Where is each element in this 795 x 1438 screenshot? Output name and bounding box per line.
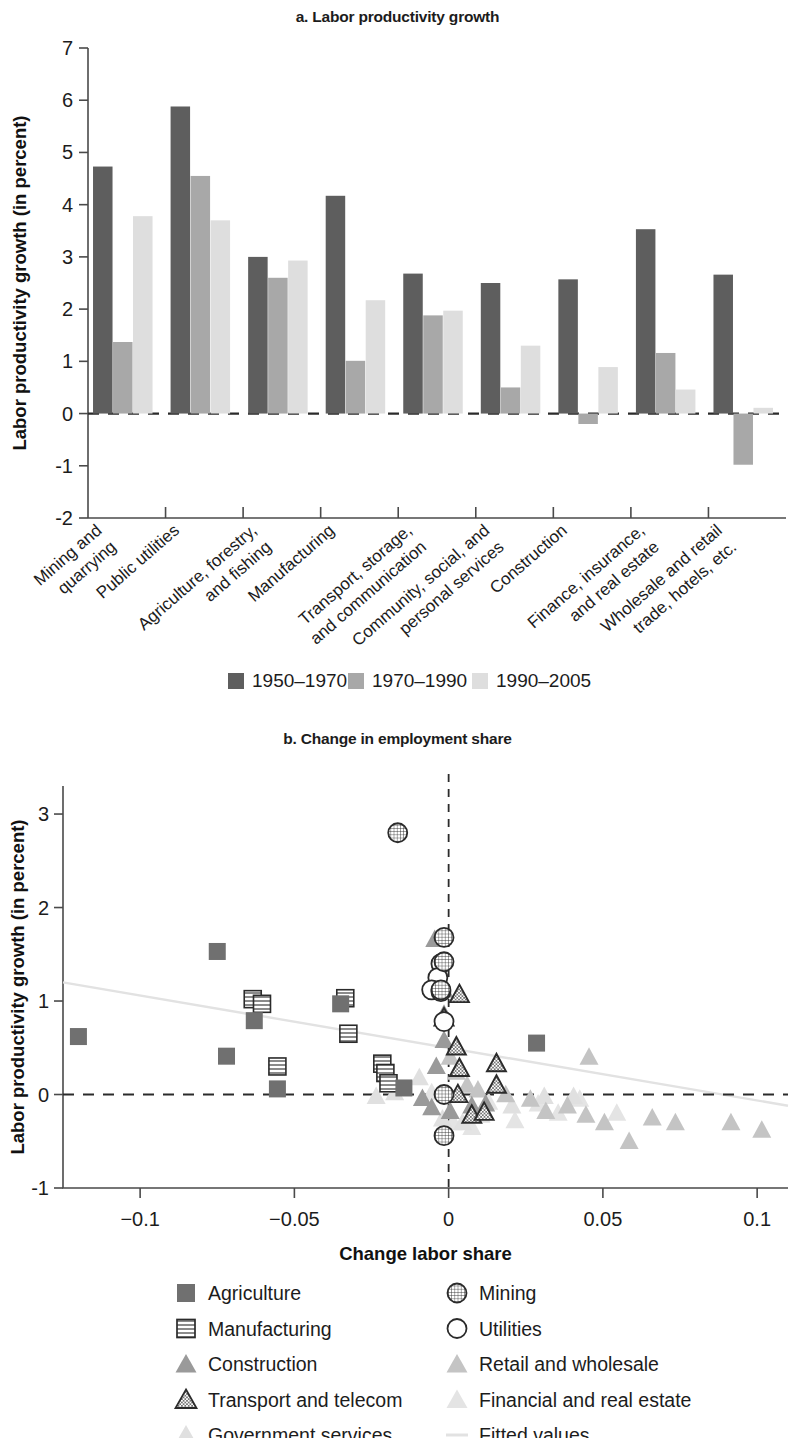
bar xyxy=(423,315,443,413)
scatter-marker xyxy=(269,1058,286,1075)
legend-label: Construction xyxy=(208,1353,317,1375)
svg-text:5: 5 xyxy=(62,141,73,163)
bar-chart: 76543210-1-2Mining andquarryingPublic ut… xyxy=(0,26,795,698)
panel-b-ylabel: Labor productivity growth (in percent) xyxy=(7,819,28,1154)
scatter-marker xyxy=(435,1126,454,1145)
svg-text:6: 6 xyxy=(62,89,73,111)
panel-a-ylabel: Labor productivity growth (in percent) xyxy=(9,115,30,450)
svg-text:−0.05: −0.05 xyxy=(269,1208,320,1230)
svg-text:-2: -2 xyxy=(55,507,73,529)
svg-text:Labor productivity growth (in: Labor productivity growth (in percent) xyxy=(7,819,28,1154)
legend-marker-triangle xyxy=(447,1390,468,1409)
panel-b-title: b. Change in employment share xyxy=(0,712,795,748)
scatter-marker xyxy=(332,995,349,1012)
bar xyxy=(133,216,153,413)
scatter-points xyxy=(70,823,771,1149)
bar xyxy=(366,300,386,413)
panel-b-xlabel: Change labor share xyxy=(339,1243,512,1264)
scatter-marker xyxy=(395,1079,412,1096)
legend-label: Transport and telecom xyxy=(208,1389,402,1411)
scatter-marker xyxy=(607,1103,626,1121)
svg-text:4: 4 xyxy=(62,194,73,216)
bar xyxy=(481,283,501,414)
scatter-marker xyxy=(269,1080,286,1097)
legend-label: 1950–1970 xyxy=(252,670,347,691)
svg-text:-1: -1 xyxy=(31,1177,49,1199)
bar xyxy=(403,274,423,414)
legend-marker-open-circle xyxy=(448,1319,467,1338)
legend-marker-triangle xyxy=(447,1354,468,1373)
bar xyxy=(326,196,346,414)
bar xyxy=(753,408,773,414)
bar xyxy=(211,220,231,413)
fitted-values-line xyxy=(63,982,788,1105)
svg-text:3: 3 xyxy=(62,246,73,268)
svg-text:0: 0 xyxy=(443,1208,454,1230)
legend-swatch xyxy=(472,673,488,689)
legend-swatch xyxy=(348,673,364,689)
bar xyxy=(268,278,288,414)
scatter-marker xyxy=(435,928,454,947)
legend-label: Government services xyxy=(208,1424,392,1438)
scatter-legend: AgricultureManufacturingConstructionTran… xyxy=(176,1282,692,1438)
scatter-marker xyxy=(666,1113,685,1131)
legend-marker-lined-square xyxy=(177,1320,195,1338)
scatter-marker xyxy=(576,1105,595,1123)
scatter-marker xyxy=(528,1035,545,1052)
svg-text:2: 2 xyxy=(62,298,73,320)
svg-text:7: 7 xyxy=(62,37,73,59)
svg-text:−0.1: −0.1 xyxy=(120,1208,159,1230)
scatter-marker xyxy=(70,1028,87,1045)
category-labels: Mining andquarryingPublic utilitiesAgric… xyxy=(30,521,740,667)
scatter-marker xyxy=(427,1057,446,1075)
svg-text:Labor productivity growth (in: Labor productivity growth (in percent) xyxy=(9,115,30,450)
scatter-marker xyxy=(435,952,454,971)
svg-text:0.1: 0.1 xyxy=(743,1208,771,1230)
legend-label: Manufacturing xyxy=(208,1318,332,1340)
bar xyxy=(443,311,463,414)
legend-marker-filled-square xyxy=(177,1284,195,1302)
legend-label: Utilities xyxy=(479,1318,542,1340)
scatter-marker xyxy=(721,1113,740,1131)
legend-label: Agriculture xyxy=(208,1282,301,1304)
scatter-marker xyxy=(435,1012,454,1031)
bar xyxy=(558,279,578,413)
legend-label: Mining xyxy=(479,1282,536,1304)
svg-text:3: 3 xyxy=(38,803,49,825)
legend-marker-outline-triangle xyxy=(176,1390,197,1409)
scatter-marker xyxy=(435,1085,454,1104)
bar xyxy=(521,346,541,414)
scatter-marker xyxy=(580,1047,599,1065)
legend-swatch xyxy=(228,673,244,689)
legend-marker-triangle xyxy=(176,1354,197,1373)
legend-label: 1990–2005 xyxy=(496,670,591,691)
bar xyxy=(598,367,618,413)
bar-legend: 1950–19701970–19901990–2005 xyxy=(228,670,591,691)
bar xyxy=(713,275,733,414)
scatter-marker xyxy=(505,1111,524,1129)
panel-b-change-in-employment-share: b. Change in employment share 3210-1−0.1… xyxy=(0,712,795,1426)
legend-label: 1970–1990 xyxy=(372,670,467,691)
legend-marker-globe-circle xyxy=(448,1284,467,1303)
bar xyxy=(501,387,521,413)
scatter-marker xyxy=(643,1108,662,1126)
bar xyxy=(171,106,191,413)
bar-groups xyxy=(93,106,773,464)
scatter-marker xyxy=(340,1025,357,1042)
scatter-marker xyxy=(246,1012,263,1029)
scatter-marker xyxy=(380,1075,397,1092)
bar xyxy=(248,257,268,414)
scatter-marker xyxy=(752,1120,771,1138)
scatter-marker xyxy=(431,980,450,999)
svg-text:-1: -1 xyxy=(55,455,73,477)
bar xyxy=(288,261,308,414)
bar xyxy=(578,414,598,424)
bar xyxy=(191,176,211,414)
svg-text:1: 1 xyxy=(62,350,73,372)
legend-label: Fitted values xyxy=(479,1424,590,1438)
legend-label: Retail and wholesale xyxy=(479,1353,659,1375)
scatter-marker xyxy=(253,995,270,1012)
scatter-marker xyxy=(209,943,226,960)
svg-text:2: 2 xyxy=(38,897,49,919)
svg-text:0: 0 xyxy=(62,403,73,425)
